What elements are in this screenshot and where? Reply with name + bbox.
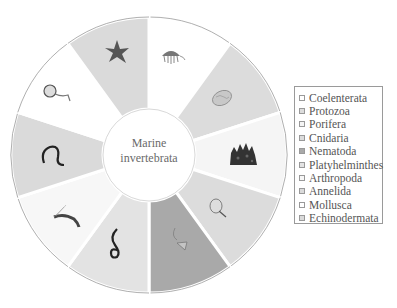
center-label-line2: invertebrata — [103, 151, 195, 166]
legend-swatch — [299, 95, 305, 101]
legend-item-echinodermata: Echinodermata — [299, 212, 382, 225]
legend-item-nematoda: Nematoda — [299, 145, 382, 158]
legend-swatch — [299, 162, 305, 168]
legend-item-platyhelminthes: Platyhelminthes — [299, 158, 382, 171]
legend-swatch — [299, 202, 305, 208]
legend-label: Cnidaria — [309, 132, 349, 144]
legend-item-arthropoda: Arthropoda — [299, 171, 382, 184]
legend: Coelenterata Protozoa Porifera Cnidaria … — [294, 86, 383, 224]
legend-label: Echinodermata — [309, 212, 379, 224]
legend-item-cnidaria: Cnidaria — [299, 131, 382, 144]
center-label-line1: Marine — [103, 136, 195, 151]
legend-swatch — [299, 135, 305, 141]
legend-item-mollusca: Mollusca — [299, 198, 382, 211]
legend-label: Porifera — [309, 118, 346, 130]
legend-swatch — [299, 121, 305, 127]
legend-label: Annelida — [309, 185, 351, 197]
legend-label: Platyhelminthes — [309, 159, 383, 171]
legend-label: Coelenterata — [309, 92, 367, 104]
legend-label: Arthropoda — [309, 172, 362, 184]
legend-item-coelenterata: Coelenterata — [299, 91, 382, 104]
legend-label: Mollusca — [309, 199, 352, 211]
legend-item-protozoa: Protozoa — [299, 104, 382, 117]
legend-swatch — [299, 215, 305, 221]
legend-label: Protozoa — [309, 105, 350, 117]
legend-swatch — [299, 175, 305, 181]
legend-swatch — [299, 148, 305, 154]
legend-swatch — [299, 108, 305, 114]
legend-swatch — [299, 188, 305, 194]
legend-label: Nematoda — [309, 145, 356, 157]
legend-item-annelida: Annelida — [299, 185, 382, 198]
legend-item-porifera: Porifera — [299, 118, 382, 131]
center-label: Marine invertebrata — [103, 136, 195, 166]
